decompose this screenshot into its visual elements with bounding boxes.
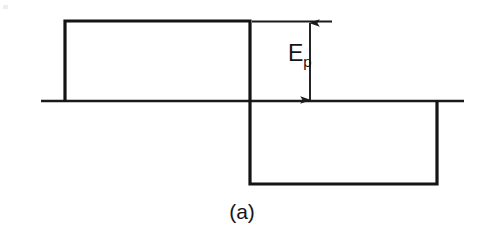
square-wave-negative-pulse — [250, 100, 437, 184]
square-wave-positive-pulse — [65, 21, 250, 102]
figure-container: Ep (a) — [0, 0, 482, 239]
square-wave-plot — [0, 0, 482, 239]
